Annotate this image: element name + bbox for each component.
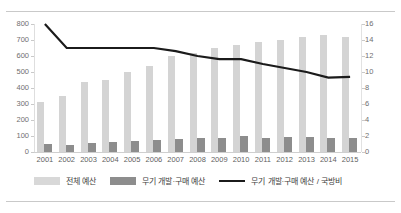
right-axis-tick-mark: [362, 136, 365, 137]
bottom-divider-rule: [6, 201, 395, 202]
left-axis-tick-label: 700: [16, 36, 29, 44]
right-axis-tick-mark: [362, 152, 365, 153]
x-axis-tick-label: 2001: [34, 154, 56, 165]
ratio-line-path: [45, 24, 350, 78]
right-axis-tick-mark: [362, 40, 365, 41]
legend-swatch-ratio-line: [219, 180, 245, 182]
left-axis-tick-label: 500: [16, 68, 29, 76]
right-axis-tick-mark: [362, 24, 365, 25]
x-axis-tick-label: 2005: [121, 154, 143, 165]
left-axis-tick-label: 600: [16, 52, 29, 60]
x-axis-tick-label: 2009: [208, 154, 230, 165]
legend-item-total-budget: 전체 예산: [34, 177, 96, 186]
left-axis-tick-mark: [31, 136, 34, 137]
legend-item-weapon-budget: 무기 개발·구매 예산: [110, 177, 205, 186]
legend-label-weapon-budget: 무기 개발·구매 예산: [142, 177, 205, 186]
right-axis-tick-mark: [362, 120, 365, 121]
left-axis-tick-label: 800: [16, 20, 29, 28]
right-axis-tick-label: 14: [365, 36, 373, 44]
right-axis-tick-label: 6: [365, 100, 369, 108]
x-axis-tick-label: 2014: [317, 154, 339, 165]
right-axis-tick-label: 10: [365, 68, 373, 76]
right-axis-tick-label: 0: [365, 148, 369, 156]
left-axis-tick-mark: [31, 104, 34, 105]
right-axis-tick-label: 16: [365, 20, 373, 28]
chart-legend: 전체 예산 무기 개발·구매 예산 무기 개발·구매 예산 / 국방비: [34, 172, 379, 190]
line-series-layer: [34, 24, 361, 152]
legend-label-total-budget: 전체 예산: [66, 177, 96, 186]
right-axis-labels: 0246810121416: [365, 24, 395, 152]
right-axis-tick-mark: [362, 88, 365, 89]
left-axis-tick-mark: [31, 40, 34, 41]
x-axis-tick-label: 2010: [230, 154, 252, 165]
right-axis-tick-label: 8: [365, 84, 369, 92]
legend-item-ratio-line: 무기 개발·구매 예산 / 국방비: [219, 177, 342, 186]
x-axis-tick-label: 2008: [187, 154, 209, 165]
left-axis-tick-mark: [31, 56, 34, 57]
left-axis-tick-mark: [31, 88, 34, 89]
x-axis-tick-label: 2015: [339, 154, 361, 165]
left-axis-tick-label: 300: [16, 100, 29, 108]
x-axis-tick-label: 2004: [99, 154, 121, 165]
left-axis-tick-mark: [31, 152, 34, 153]
x-axis-tick-label: 2002: [56, 154, 78, 165]
right-axis-tick-mark: [362, 72, 365, 73]
legend-label-ratio-line: 무기 개발·구매 예산 / 국방비: [251, 177, 342, 186]
left-axis-tick-label: 200: [16, 116, 29, 124]
x-axis-tick-label: 2003: [78, 154, 100, 165]
legend-swatch-total-budget: [34, 177, 60, 185]
chart-figure: 0100200300400500600700800 0246810121416 …: [0, 0, 401, 213]
x-axis-tick-label: 2011: [252, 154, 274, 165]
x-axis-tick-label: 2013: [296, 154, 318, 165]
right-axis-tick-mark: [362, 104, 365, 105]
x-axis-baseline: [34, 152, 361, 153]
left-axis-tick-mark: [31, 72, 34, 73]
x-axis-tick-label: 2012: [274, 154, 296, 165]
right-axis-tick-label: 2: [365, 132, 369, 140]
x-axis-labels: 2001200220032004200520062007200820092010…: [34, 154, 361, 166]
right-axis-tick-mark: [362, 56, 365, 57]
legend-swatch-weapon-budget: [110, 177, 136, 185]
left-axis-tick-label: 400: [16, 84, 29, 92]
left-axis-labels: 0100200300400500600700800: [0, 24, 29, 152]
x-axis-tick-label: 2006: [143, 154, 165, 165]
left-axis-tick-label: 0: [25, 148, 29, 156]
right-axis-tick-label: 12: [365, 52, 373, 60]
right-axis-tick-label: 4: [365, 116, 369, 124]
left-axis-tick-label: 100: [16, 132, 29, 140]
left-axis-tick-mark: [31, 120, 34, 121]
left-axis-tick-mark: [31, 24, 34, 25]
plot-area: [34, 24, 361, 152]
x-axis-tick-label: 2007: [165, 154, 187, 165]
top-divider-rule: [6, 11, 395, 12]
